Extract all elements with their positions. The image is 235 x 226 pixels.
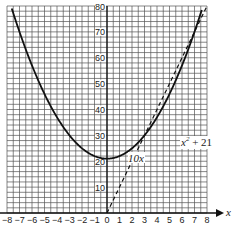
x-tick-label: 6: [180, 215, 185, 225]
x-tick-label: −3: [65, 215, 75, 225]
tick-labels: −8−7−6−5−4−3−2−1012345678102030405060708…: [2, 2, 210, 226]
x-tick-label: −8: [2, 215, 12, 225]
chart: −8−7−6−5−4−3−2−1012345678102030405060708…: [0, 0, 235, 226]
line-label: 10x: [128, 152, 144, 164]
x-tick-label: 2: [130, 215, 135, 225]
y-tick-label: 40: [95, 105, 105, 115]
x-tick-label: −7: [15, 215, 25, 225]
curve-label: x2 + 21: [180, 135, 212, 148]
x-axis-label: x: [225, 206, 231, 218]
x-tick-label: −2: [77, 215, 87, 225]
y-tick-label: 30: [95, 131, 105, 141]
y-tick-label: 50: [95, 79, 105, 89]
x-axis-arrow-icon: [216, 209, 224, 217]
x-tick-label: 5: [167, 215, 172, 225]
y-tick-label: 10: [95, 183, 105, 193]
y-tick-label: 80: [95, 2, 105, 12]
x-tick-label: 7: [192, 215, 197, 225]
x-tick-label: −4: [52, 215, 62, 225]
x-tick-label: −1: [90, 215, 100, 225]
x-tick-label: 1: [117, 215, 122, 225]
x-tick-label: 3: [142, 215, 147, 225]
x-tick-label: 4: [155, 215, 160, 225]
x-tick-label: −6: [27, 215, 37, 225]
x-tick-label: 8: [205, 215, 210, 225]
y-tick-label: 70: [95, 27, 105, 37]
x-tick-label: 0: [105, 215, 110, 225]
y-tick-label: 60: [95, 53, 105, 63]
x-tick-label: −5: [40, 215, 50, 225]
